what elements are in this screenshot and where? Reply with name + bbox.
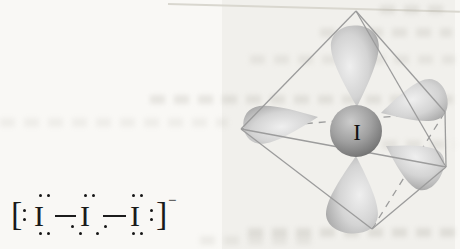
bond-line <box>55 215 76 217</box>
lone-pair-dot <box>92 194 95 197</box>
charge-superscript: − <box>168 193 176 208</box>
close-bracket: ] <box>156 197 167 231</box>
central-atom-label: I <box>353 120 361 145</box>
iodine-atom-1: I <box>34 201 44 231</box>
lone-pair-dot <box>150 209 153 212</box>
lone-pair-dot <box>96 232 99 235</box>
lone-pair-dot <box>150 218 153 221</box>
lone-pair-dot <box>140 232 143 235</box>
lone-pair-dot <box>79 232 82 235</box>
iodine-atom-2: I <box>80 201 90 231</box>
lobe-equatorial-lower-right <box>375 127 451 196</box>
lone-pair-dot <box>23 209 26 212</box>
bond-line <box>103 215 126 217</box>
lone-pair-dot <box>84 194 87 197</box>
lobe-axial-bottom <box>325 154 382 235</box>
lone-pair-dot <box>39 232 42 235</box>
lone-pair-dot <box>132 194 135 197</box>
lone-pair-dot <box>132 232 135 235</box>
open-bracket: [ <box>11 197 22 231</box>
iodine-atom-3: I <box>130 201 140 231</box>
lewis-structure: [ I I I ] − <box>10 188 192 246</box>
lone-pair-dot <box>39 194 42 197</box>
lobe-equatorial-left <box>241 98 321 146</box>
lobe-axial-top <box>330 25 381 108</box>
lone-pair-dot <box>23 218 26 221</box>
lone-pair-dot <box>47 194 50 197</box>
lone-pair-dot <box>47 232 50 235</box>
lone-pair-dot <box>140 194 143 197</box>
lone-pair-dot <box>71 225 74 228</box>
lone-pair-dot <box>104 225 107 228</box>
edge-right-vertical <box>445 112 446 167</box>
lobe-equatorial-upper-right <box>376 75 453 133</box>
